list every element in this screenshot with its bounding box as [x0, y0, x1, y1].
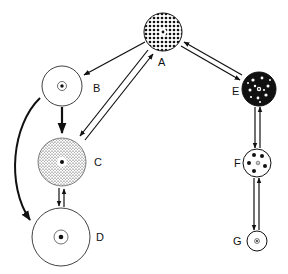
- node-f: F: [234, 149, 271, 177]
- edge-c-to-a: [85, 54, 153, 140]
- edge-e-to-a: [184, 42, 242, 75]
- node-c: C: [38, 138, 102, 186]
- edge-a-to-c: [80, 50, 148, 136]
- node-e-label: E: [232, 85, 239, 97]
- node-d-label: D: [96, 231, 104, 243]
- node-b: B: [42, 66, 100, 106]
- node-d: D: [32, 208, 104, 266]
- node-b-label: B: [93, 82, 100, 94]
- edge-a-to-b: [84, 42, 145, 75]
- node-g-label: G: [233, 235, 242, 247]
- edge-b-to-d: [15, 98, 40, 220]
- state-diagram: A B C D E: [0, 0, 288, 274]
- node-c-label: C: [94, 156, 102, 168]
- node-g: G: [233, 231, 267, 251]
- node-a: A: [144, 13, 182, 68]
- node-a-label: A: [158, 56, 166, 68]
- node-e: E: [232, 72, 276, 106]
- node-f-label: F: [234, 157, 241, 169]
- edge-a-to-e: [181, 46, 240, 80]
